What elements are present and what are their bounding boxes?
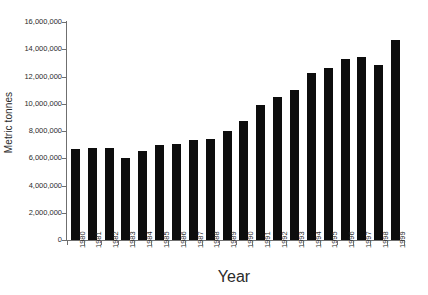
bar <box>341 59 350 240</box>
x-axis-tick <box>101 241 102 245</box>
bar <box>138 151 147 240</box>
bar <box>121 158 130 240</box>
bar <box>155 145 164 240</box>
bar <box>307 73 316 240</box>
x-axis-tick <box>134 241 135 245</box>
x-axis-tick <box>252 241 253 245</box>
bar <box>206 139 215 240</box>
y-axis-tick-label: 0 <box>6 236 62 244</box>
x-axis-tick <box>168 241 169 245</box>
x-axis-tick <box>118 241 119 245</box>
bar <box>105 148 114 240</box>
y-axis-tick-label: 14,000,000 <box>6 45 62 53</box>
y-axis-tick <box>62 104 67 105</box>
bar <box>357 57 366 240</box>
y-axis-tick <box>62 158 67 159</box>
bar <box>256 105 265 240</box>
y-axis-tick-label: 2,000,000 <box>6 209 62 217</box>
x-axis-title: Year <box>0 268 428 286</box>
y-axis-tick <box>62 186 67 187</box>
bar <box>290 90 299 240</box>
x-axis-tick-label: 1995 <box>331 231 339 248</box>
x-axis-tick <box>67 241 68 245</box>
x-axis-tick-label: 1981 <box>95 231 103 248</box>
x-axis-tick-label: 1998 <box>382 231 390 248</box>
y-axis-tick <box>62 131 67 132</box>
x-axis-tick-label: 1988 <box>213 231 221 248</box>
x-axis-tick-label: 1980 <box>79 231 87 248</box>
y-axis-tick-label: 6,000,000 <box>6 154 62 162</box>
y-axis-tick <box>62 22 67 23</box>
bar-chart-figure: Metric tonnes 02,000,0004,000,0006,000,0… <box>0 0 428 295</box>
bar <box>324 68 333 240</box>
x-axis-tick-label: 1990 <box>247 231 255 248</box>
x-axis-tick <box>303 241 304 245</box>
y-axis-tick-label: 8,000,000 <box>6 127 62 135</box>
x-axis-title-text: Year <box>218 268 250 286</box>
bar <box>239 121 248 240</box>
x-axis-tick-label: 1987 <box>197 231 205 248</box>
x-axis-tick-label: 1982 <box>112 231 120 248</box>
y-axis-tick <box>62 213 67 214</box>
bar <box>189 140 198 240</box>
x-axis-tick <box>370 241 371 245</box>
x-axis-tick <box>337 241 338 245</box>
y-axis-tick <box>62 77 67 78</box>
bar <box>172 144 181 240</box>
x-axis-tick <box>387 241 388 245</box>
x-axis-tick-label: 1991 <box>264 231 272 248</box>
y-axis-tick-label: 12,000,000 <box>6 73 62 81</box>
x-axis-tick <box>269 241 270 245</box>
x-axis-tick <box>286 241 287 245</box>
plot-area <box>67 22 404 240</box>
x-axis-tick <box>404 241 405 245</box>
bar <box>223 131 232 240</box>
y-axis-tick-label: 10,000,000 <box>6 100 62 108</box>
x-axis-tick <box>185 241 186 245</box>
x-axis-tick-label: 1983 <box>129 231 137 248</box>
bar <box>88 148 97 240</box>
x-axis-tick <box>202 241 203 245</box>
x-axis-tick <box>236 241 237 245</box>
x-axis-tick <box>320 241 321 245</box>
x-axis-tick-label: 1999 <box>399 231 407 248</box>
x-axis-tick <box>84 241 85 245</box>
y-axis-tick-label: 4,000,000 <box>6 182 62 190</box>
y-axis-tick-labels: 02,000,0004,000,0006,000,0008,000,00010,… <box>2 0 62 295</box>
x-axis-tick-label: 1992 <box>281 231 289 248</box>
bar <box>273 97 282 240</box>
bar <box>391 40 400 240</box>
x-axis-tick <box>353 241 354 245</box>
y-axis-tick-label: 16,000,000 <box>6 18 62 26</box>
x-axis-tick <box>151 241 152 245</box>
x-axis-tick-label: 1993 <box>298 231 306 248</box>
x-axis-tick-label: 1996 <box>348 231 356 248</box>
x-axis-tick-label: 1994 <box>315 231 323 248</box>
x-axis-tick-label: 1989 <box>230 231 238 248</box>
x-axis-tick-label: 1984 <box>146 231 154 248</box>
x-axis-tick-label: 1986 <box>180 231 188 248</box>
x-axis-tick-label: 1985 <box>163 231 171 248</box>
x-axis-tick <box>219 241 220 245</box>
y-axis-tick <box>62 49 67 50</box>
bar <box>374 65 383 240</box>
bar <box>71 149 80 240</box>
x-axis-tick-label: 1997 <box>365 231 373 248</box>
